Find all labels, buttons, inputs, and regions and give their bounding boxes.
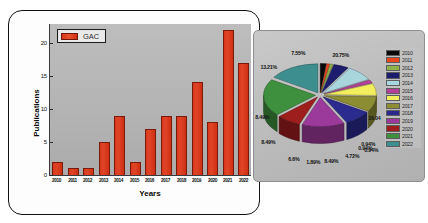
bar-chart-panel: Publications 05101520 GAC 20102011201220…: [8, 10, 260, 215]
pie-legend-label-2020: 2020: [402, 126, 413, 132]
pie-legend-label-2016: 2016: [402, 95, 413, 101]
pie-pct-label-5: 6.6%: [288, 156, 299, 162]
bar-plot-area: 05101520: [49, 24, 251, 176]
pie-pct-label-1: 7.55%: [291, 50, 305, 56]
pie-chart-panel: 20.75%7.55%13.21%8.49%8.49%6.6%1.89%8.49…: [253, 30, 425, 182]
bar-2018: [176, 116, 187, 175]
pie-legend-swatch-2019: [386, 118, 400, 124]
bar-2015: [130, 162, 141, 175]
x-tick-2018: 2018: [175, 177, 187, 183]
pie-legend-row-2021: 2021: [386, 133, 420, 140]
y-tick-15: 15: [41, 73, 50, 79]
x-tick-2015: 2015: [128, 177, 140, 183]
pie-legend-swatch-2017: [386, 103, 400, 109]
x-axis-ticks: 2010201120122013201420152016201720182019…: [49, 177, 251, 183]
pie-legend-swatch-2013: [386, 72, 400, 78]
pie-legend-row-2012: 2012: [386, 64, 420, 71]
pie-legend-row-2019: 2019: [386, 117, 420, 124]
x-tick-2022: 2022: [237, 177, 249, 183]
pie-legend-swatch-2020: [386, 125, 400, 131]
pie-legend-row-2013: 2013: [386, 72, 420, 79]
bar-2016: [145, 129, 156, 175]
pie-legend-swatch-2021: [386, 133, 400, 139]
bar-series: [50, 24, 251, 175]
bar-2011: [68, 168, 79, 175]
pie-pct-label-7: 8.49%: [324, 158, 338, 164]
pie-legend-label-2010: 2010: [402, 50, 413, 56]
pie-chart-legend: 2010201120122013201420152016201720182019…: [385, 48, 421, 148]
pie-legend-row-2010: 2010: [386, 49, 420, 56]
pie-pct-label-4: 8.49%: [261, 139, 275, 145]
bar-2010: [52, 162, 63, 175]
bar-2014: [114, 116, 125, 175]
bar-2012: [83, 168, 94, 175]
pie-legend-label-2018: 2018: [402, 110, 413, 116]
pie-legend-swatch-2012: [386, 65, 400, 71]
pie-legend-row-2020: 2020: [386, 125, 420, 132]
pie-legend-label-2012: 2012: [402, 65, 413, 71]
x-tick-2011: 2011: [66, 177, 78, 183]
pie-legend-swatch-2022: [386, 141, 400, 147]
bar-2017: [161, 116, 172, 175]
pie-legend-swatch-2014: [386, 80, 400, 86]
bar-chart-inner: Publications 05101520 GAC 20102011201220…: [9, 11, 259, 214]
x-tick-2010: 2010: [51, 177, 63, 183]
pie-pct-label-2: 13.21%: [260, 64, 277, 70]
pie-legend-row-2011: 2011: [386, 57, 420, 64]
bar-2013: [99, 142, 110, 175]
pie-legend-label-2011: 2011: [402, 57, 412, 63]
legend-swatch-gac: [61, 33, 78, 40]
pie-legend-label-2014: 2014: [402, 80, 413, 86]
x-tick-2012: 2012: [82, 177, 94, 183]
y-tick-20: 20: [41, 40, 50, 46]
pie-legend-swatch-2011: [386, 57, 400, 63]
pie-legend-label-2017: 2017: [402, 103, 413, 109]
pie-pct-label-3: 8.49%: [255, 114, 269, 120]
pie-legend-swatch-2016: [386, 95, 400, 101]
figure-root: Publications 05101520 GAC 20102011201220…: [0, 0, 428, 223]
pie-legend-row-2015: 2015: [386, 87, 420, 94]
pie-pct-label-11: 0.94%: [364, 147, 378, 153]
pie-legend-row-2022: 2022: [386, 140, 420, 147]
x-tick-2014: 2014: [113, 177, 125, 183]
pie-legend-row-2016: 2016: [386, 95, 420, 102]
pie-legend-row-2014: 2014: [386, 79, 420, 86]
pie-legend-label-2022: 2022: [402, 141, 413, 147]
pie-pct-label-0: 20.75%: [332, 52, 349, 58]
pie-legend-label-2015: 2015: [402, 88, 413, 94]
x-tick-2021: 2021: [222, 177, 234, 183]
pie-legend-swatch-2018: [386, 110, 400, 116]
pie-legend-row-2017: 2017: [386, 102, 420, 109]
pie-legend-label-2019: 2019: [402, 118, 413, 124]
pie-legend-swatch-2010: [386, 50, 400, 56]
x-tick-2016: 2016: [144, 177, 156, 183]
bar-2022: [238, 63, 249, 175]
x-axis-title: Years: [49, 189, 251, 198]
x-tick-2019: 2019: [191, 177, 203, 183]
x-tick-2013: 2013: [97, 177, 109, 183]
bar-2021: [223, 30, 234, 175]
pie-pct-label-6: 1.89%: [306, 159, 320, 165]
y-axis-title: Publications: [32, 89, 41, 137]
x-tick-2017: 2017: [160, 177, 172, 183]
pie-legend-swatch-2015: [386, 88, 400, 94]
pie-legend-label-2013: 2013: [402, 72, 413, 78]
legend-label-gac: GAC: [83, 32, 99, 41]
bar-chart-legend: GAC: [57, 29, 106, 43]
pie-legend-label-2021: 2021: [402, 133, 413, 139]
x-tick-2020: 2020: [206, 177, 218, 183]
pie-legend-row-2018: 2018: [386, 110, 420, 117]
y-tick-10: 10: [41, 106, 50, 112]
pie-pct-label-12: 16.04: [368, 115, 380, 121]
bar-2020: [207, 122, 218, 175]
bar-2019: [192, 82, 203, 175]
pie-pct-label-8: 4.72%: [345, 153, 359, 159]
